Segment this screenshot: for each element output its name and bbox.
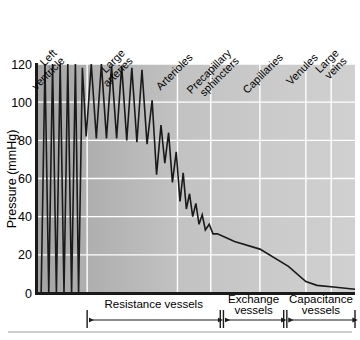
y-axis-line — [35, 63, 38, 295]
vessel-group-resistance-vessels: Resistance vessels — [87, 298, 220, 328]
vessel-group-annotations: Resistance vesselsExchangevesselsCapacit… — [87, 293, 355, 328]
y-tick-label: 40 — [18, 210, 32, 224]
vessel-group-capacitance: Capacitancevessels — [287, 293, 355, 328]
group-label-line2: vessels — [302, 304, 341, 316]
y-tick-label: 120 — [11, 58, 32, 72]
group-label-line1: Resistance vessels — [104, 298, 203, 310]
y-tick-label: 100 — [11, 96, 32, 110]
y-tick-label: 0 — [25, 287, 32, 301]
pressure-profile-figure: 020406080100120 Pressure (mmHg) Leftvent… — [0, 0, 360, 340]
y-tick-label: 20 — [18, 248, 32, 262]
y-tick-label: 80 — [18, 134, 32, 148]
vessel-group-exchange: Exchangevessels — [223, 293, 283, 328]
y-axis-title: Pressure (mmHg) — [5, 130, 19, 229]
blood-pressure-chart: 020406080100120 Pressure (mmHg) Leftvent… — [0, 0, 360, 340]
group-label-line2: vessels — [234, 304, 273, 316]
y-tick-label: 60 — [18, 172, 32, 186]
